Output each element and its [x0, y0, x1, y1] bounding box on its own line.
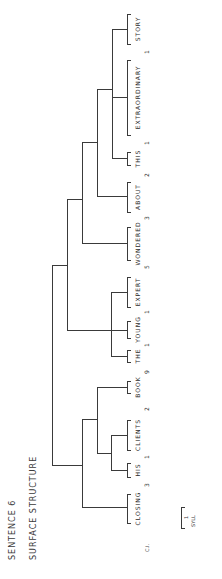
scale-unit: SYLL	[190, 515, 196, 527]
ci-label: C.I.	[144, 543, 150, 552]
word-bracket	[127, 14, 131, 44]
structure-title: SURFACE STRUCTURE	[29, 456, 38, 560]
word-brackets	[127, 14, 131, 523]
word-bracket	[127, 463, 131, 477]
surface-structure-tree-diagram: STORYEXTRAORDINARYTHISABOUTWONDEREDEXPER…	[0, 0, 222, 579]
scale-value: 1	[183, 516, 189, 519]
pause-value: 3	[143, 216, 150, 220]
word-label: EXPERT	[134, 278, 141, 307]
word-label: THE	[134, 349, 141, 365]
pause-value: 3	[143, 483, 150, 487]
tree-branches	[52, 29, 127, 507]
pause-value: 5	[143, 265, 150, 269]
word-bracket	[127, 152, 131, 165]
word-bracket	[127, 227, 131, 260]
word-label: YOUNG	[134, 316, 141, 344]
word-label: BOOK	[134, 376, 141, 397]
word-bracket	[127, 494, 131, 523]
word-label: CLOSING	[134, 492, 141, 526]
word-label: STORY	[134, 17, 141, 42]
word-label: THIS	[134, 150, 141, 169]
pause-values: 11235119213	[143, 50, 150, 487]
sentence-title: SENTENCE 6	[8, 500, 17, 560]
pause-value: 1	[143, 455, 150, 459]
word-labels: STORYEXTRAORDINARYTHISABOUTWONDEREDEXPER…	[134, 17, 141, 526]
word-bracket	[127, 60, 131, 135]
pause-value: 2	[143, 407, 150, 411]
word-bracket	[127, 420, 131, 450]
word-label: CLIENTS	[134, 419, 141, 451]
pause-value: 2	[143, 173, 150, 177]
word-label: EXTRAORDINARY	[134, 66, 141, 130]
word-bracket	[127, 350, 131, 362]
pause-value: 1	[143, 50, 150, 54]
word-label: HIS	[134, 463, 141, 476]
pause-value: 1	[143, 141, 150, 145]
pause-value: 1	[143, 310, 150, 314]
word-bracket	[127, 381, 131, 393]
word-label: ABOUT	[134, 184, 141, 210]
word-bracket	[127, 321, 131, 338]
pause-value: 1	[143, 343, 150, 347]
word-bracket	[127, 182, 131, 212]
word-label: WONDERED	[134, 221, 141, 265]
pause-value: 9	[143, 370, 150, 374]
scale-bar: 1 SYLL	[181, 507, 196, 528]
word-bracket	[127, 277, 131, 307]
